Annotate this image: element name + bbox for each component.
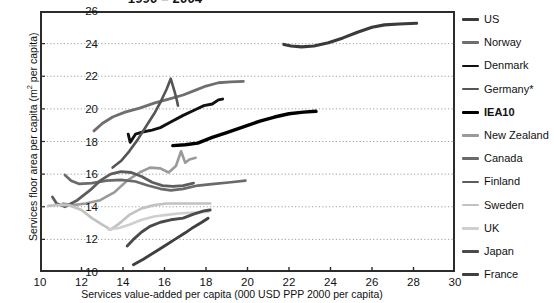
legend-label-us: US [484, 14, 499, 25]
legend-swatch-germany [462, 88, 479, 91]
y-axis-label-text: Services floor area per capita (m [27, 89, 39, 241]
legend-item-denmark[interactable]: Denmark [462, 54, 554, 77]
y-tick-label: 14 [72, 201, 98, 213]
legend-item-uk[interactable]: UK [462, 217, 554, 240]
y-tick-label: 12 [72, 233, 98, 245]
legend-swatch-france [462, 273, 479, 276]
x-tick-label: 10 [25, 276, 55, 288]
legend-label-canada: Canada [484, 153, 523, 164]
series-line-denmark [128, 99, 222, 142]
x-tick-label: 24 [316, 276, 346, 288]
chart-title: 1990 – 2004 [40, 0, 290, 3]
x-tick-label: 18 [191, 276, 221, 288]
x-axis-label: Services value-added per capita (000 USD… [42, 288, 422, 300]
legend-item-new-zealand[interactable]: New Zealand [462, 124, 554, 147]
legend-label-japan: Japan [484, 246, 514, 257]
legend-label-new-zealand: New Zealand [484, 130, 549, 141]
plot-lines [40, 11, 455, 272]
legend-swatch-canada [462, 157, 479, 160]
legend-item-norway[interactable]: Norway [462, 31, 554, 54]
legend-label-iea10: IEA10 [484, 107, 515, 118]
y-tick-label: 16 [72, 168, 98, 180]
legend-swatch-uk [462, 227, 479, 230]
x-tick-label: 12 [67, 276, 97, 288]
y-tick-label: 22 [72, 70, 98, 82]
legend-label-finland: Finland [484, 176, 520, 187]
legend-label-uk: UK [484, 223, 499, 234]
legend-item-iea10[interactable]: IEA10 [462, 101, 554, 124]
legend-item-france[interactable]: France [462, 263, 554, 286]
legend-item-germany[interactable]: Germany* [462, 78, 554, 101]
y-tick-label: 20 [72, 103, 98, 115]
x-tick-label: 26 [357, 276, 387, 288]
y-axis-label-tail: per capita) [27, 33, 39, 86]
chart-legend: USNorwayDenmarkGermany*IEA10New ZealandC… [462, 8, 554, 286]
legend-swatch-denmark [462, 65, 479, 68]
y-axis-label-sup: 2 [25, 85, 34, 89]
legend-item-sweden[interactable]: Sweden [462, 194, 554, 217]
y-tick-label: 18 [72, 136, 98, 148]
legend-swatch-sweden [462, 204, 479, 207]
x-tick-label: 14 [108, 276, 138, 288]
legend-item-canada[interactable]: Canada [462, 147, 554, 170]
y-tick-label: 26 [72, 5, 98, 17]
legend-label-denmark: Denmark [484, 60, 529, 71]
legend-item-finland[interactable]: Finland [462, 170, 554, 193]
legend-swatch-finland [462, 181, 479, 184]
legend-swatch-norway [462, 41, 479, 44]
legend-swatch-new-zealand [462, 134, 479, 137]
series-line-france [133, 218, 208, 264]
plot-area [40, 11, 455, 272]
series-line-iea10 [173, 111, 316, 145]
legend-item-japan[interactable]: Japan [462, 240, 554, 263]
legend-label-france: France [484, 269, 518, 280]
y-axis-label: Services floor area per capita (m2 per c… [25, 19, 39, 255]
x-tick-label: 16 [150, 276, 180, 288]
legend-item-us[interactable]: US [462, 8, 554, 31]
x-tick-label: 28 [399, 276, 429, 288]
legend-label-sweden: Sweden [484, 200, 524, 211]
x-tick-label: 22 [274, 276, 304, 288]
legend-swatch-iea10 [462, 111, 479, 114]
y-tick-label: 24 [72, 38, 98, 50]
legend-label-germany: Germany* [484, 84, 534, 95]
x-tick-label: 20 [233, 276, 263, 288]
legend-label-norway: Norway [484, 37, 521, 48]
legend-swatch-japan [462, 250, 479, 253]
chart-page: 1990 – 2004 101214161820222426 101214161… [0, 0, 554, 303]
legend-swatch-us [462, 18, 479, 21]
